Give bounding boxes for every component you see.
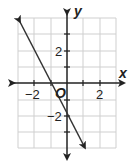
x-tick-label-2: 2 (96, 87, 103, 102)
y-axis-label: y (73, 3, 83, 19)
y-tick-label-neg2: −2 (47, 109, 62, 124)
y-tick-label-2: 2 (55, 44, 62, 59)
origin-label: O (55, 85, 66, 101)
x-tick-label-neg2: −2 (25, 87, 40, 102)
x-axis-label: x (118, 65, 128, 81)
coordinate-plane: y x O −2 2 2 −2 (0, 0, 130, 165)
